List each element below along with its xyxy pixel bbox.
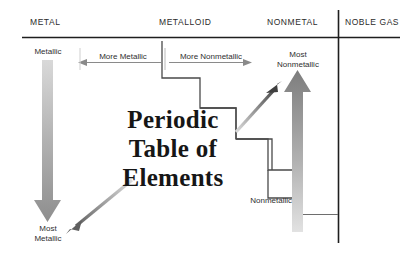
title-line-1: Periodic: [108, 105, 238, 134]
title-line-2: Table of: [108, 134, 238, 163]
metalloid-staircase-line-lower: [236, 139, 300, 170]
label-most-nonmetallic-line1: Most: [268, 50, 328, 60]
page-title: Periodic Table of Elements: [108, 105, 238, 192]
title-line-3: Elements: [108, 163, 238, 192]
label-most-nonmetallic-line2: Nonmetallic: [264, 60, 332, 70]
metallic-gradient-down-arrow: [34, 60, 61, 222]
label-metallic: Metallic: [27, 47, 69, 57]
diagonal-arrow-upper-right: [236, 81, 282, 132]
periodic-table-trends-diagram: METAL METALLOID NONMETAL NOBLE GAS: [0, 0, 406, 264]
label-most-metallic-line1: Most: [26, 224, 70, 234]
label-most-metallic-line2: Metallic: [26, 234, 70, 244]
label-nonmetallic: Nonmetallic: [240, 196, 292, 206]
label-more-nonmetallic: More Nonmetallic: [172, 52, 250, 62]
label-more-metallic: More Metallic: [92, 52, 154, 62]
nonmetallic-gradient-up-arrow: [284, 70, 311, 232]
